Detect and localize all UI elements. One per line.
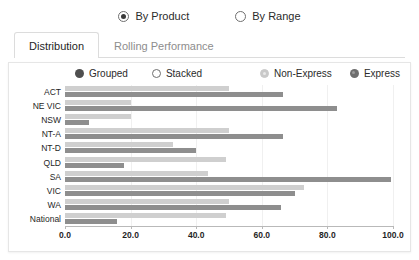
bar-non-express[interactable]: [65, 114, 131, 119]
x-axis-tick-label: 60.0: [254, 230, 271, 240]
bar-express[interactable]: [65, 205, 281, 210]
radio-by-range[interactable]: By Range: [235, 10, 300, 22]
bar-non-express[interactable]: [65, 157, 226, 162]
x-tick-mark: [393, 226, 394, 229]
legend-item-express[interactable]: Express: [350, 68, 400, 79]
chart-row: National: [65, 212, 393, 226]
radio-grouped-label: Grouped: [89, 68, 128, 79]
y-axis-category-label: ACT: [44, 87, 61, 97]
radio-unselected-icon[interactable]: [152, 69, 161, 78]
y-axis-category-label: NT-A: [42, 129, 61, 139]
legend-non-express-label: Non-Express: [274, 68, 332, 79]
y-axis-category-label: National: [30, 214, 61, 224]
legend-item-non-express[interactable]: Non-Express: [260, 68, 332, 79]
y-axis-category-label: NT-D: [41, 143, 61, 153]
y-axis-category-label: QLD: [44, 158, 61, 168]
view-mode-radio-group: By Product By Range: [0, 0, 419, 26]
bar-express[interactable]: [65, 134, 283, 139]
y-axis-category-label: WA: [48, 200, 61, 210]
bar-mode-radio-group: Grouped Stacked: [75, 68, 202, 79]
y-axis-category-label: VIC: [47, 186, 61, 196]
bar-non-express[interactable]: [65, 128, 229, 133]
x-tick-mark: [327, 226, 328, 229]
bar-non-express[interactable]: [65, 142, 173, 147]
bar-non-express[interactable]: [65, 100, 131, 105]
chart-card: Grouped Stacked Non-Express Express: [8, 62, 411, 252]
bar-express[interactable]: [65, 163, 124, 168]
bar-express[interactable]: [65, 148, 196, 153]
chart-row: ACT: [65, 85, 393, 99]
radio-by-product-label: By Product: [135, 10, 189, 22]
x-tick-mark: [131, 226, 132, 229]
tab-rolling-performance[interactable]: Rolling Performance: [99, 32, 229, 57]
x-axis-tick-label: 20.0: [122, 230, 139, 240]
bar-non-express[interactable]: [65, 199, 229, 204]
plot-area: 0.020.040.060.080.0100.0ACTNE VICNSWNT-A…: [65, 85, 393, 227]
bar-non-express[interactable]: [65, 86, 229, 91]
series-legend: Non-Express Express: [260, 68, 400, 79]
plot-wrapper: 0.020.040.060.080.0100.0ACTNE VICNSWNT-A…: [9, 83, 412, 251]
x-axis-tick-label: 80.0: [319, 230, 336, 240]
tab-distribution-label: Distribution: [29, 40, 84, 52]
bar-non-express[interactable]: [65, 171, 208, 176]
radio-selected-icon[interactable]: [118, 11, 129, 22]
bar-express[interactable]: [65, 106, 337, 111]
chart-legend-row: Grouped Stacked Non-Express Express: [9, 63, 410, 83]
bar-non-express[interactable]: [65, 213, 226, 218]
chart-row: SA: [65, 170, 393, 184]
bar-express[interactable]: [65, 219, 117, 224]
y-axis-category-label: NSW: [41, 115, 61, 125]
bar-express[interactable]: [65, 92, 283, 97]
x-gridline: [393, 85, 394, 226]
x-tick-mark: [196, 226, 197, 229]
chart-panel: By Product By Range Distribution Rolling…: [0, 0, 419, 260]
radio-stacked-label: Stacked: [166, 68, 202, 79]
chart-row: NT-D: [65, 141, 393, 155]
x-axis-tick-label: 0.0: [59, 230, 71, 240]
chart-row: NE VIC: [65, 99, 393, 113]
bar-express[interactable]: [65, 177, 391, 182]
radio-by-range-label: By Range: [252, 10, 300, 22]
y-axis-category-label: NE VIC: [33, 101, 61, 111]
x-tick-mark: [65, 226, 66, 229]
legend-swatch-icon: [350, 69, 359, 78]
radio-grouped[interactable]: Grouped: [75, 68, 128, 79]
chart-row: NSW: [65, 113, 393, 127]
x-axis-tick-label: 40.0: [188, 230, 205, 240]
legend-swatch-icon: [260, 69, 269, 78]
radio-by-product[interactable]: By Product: [118, 10, 189, 22]
x-axis-tick-label: 100.0: [382, 230, 403, 240]
bar-express[interactable]: [65, 191, 295, 196]
bar-non-express[interactable]: [65, 185, 304, 190]
x-tick-mark: [262, 226, 263, 229]
bar-express[interactable]: [65, 120, 89, 125]
chart-row: NT-A: [65, 127, 393, 141]
chart-row: QLD: [65, 156, 393, 170]
y-axis-category-label: SA: [50, 172, 61, 182]
chart-row: WA: [65, 198, 393, 212]
chart-row: VIC: [65, 184, 393, 198]
tab-bar: Distribution Rolling Performance: [14, 32, 405, 58]
tab-rolling-performance-label: Rolling Performance: [114, 40, 214, 52]
radio-unselected-icon[interactable]: [235, 11, 246, 22]
legend-express-label: Express: [364, 68, 400, 79]
tab-distribution[interactable]: Distribution: [14, 32, 99, 58]
radio-stacked[interactable]: Stacked: [152, 68, 202, 79]
radio-selected-icon[interactable]: [75, 69, 84, 78]
